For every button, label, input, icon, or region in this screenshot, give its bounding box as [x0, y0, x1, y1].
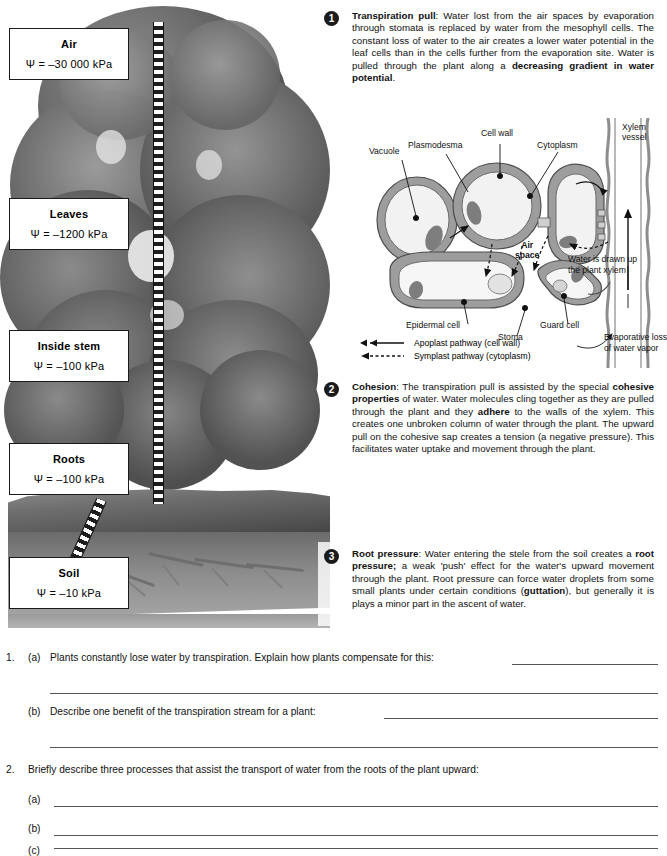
question-1-number: 1.	[6, 652, 15, 663]
label-water-drawn-line1: Water is drawn up	[568, 254, 637, 264]
step-text: Root pressure: Water entering the stele …	[324, 548, 654, 610]
question-2c-label: (c)	[28, 845, 40, 856]
bedrock-layer	[8, 614, 330, 628]
answer-line-1b-2[interactable]	[50, 747, 658, 748]
answer-line-1b-1[interactable]	[384, 718, 658, 719]
worksheet-questions: 1. (a) Plants constantly lose water by t…	[0, 648, 663, 849]
step-number-badge: 3	[324, 549, 339, 564]
legend-row-apoplast: Apoplast pathway (cell wall)	[358, 336, 588, 349]
water-potential-box-air: Air Ψ = –30 000 kPa	[9, 28, 129, 80]
potential-box-name: Leaves	[10, 208, 128, 220]
label-plasmodesma: Plasmodesma	[408, 140, 462, 150]
water-potential-box-roots: Roots Ψ = –100 kPa	[9, 443, 129, 495]
label-air-space: Air space	[515, 240, 539, 260]
potential-box-name: Soil	[10, 567, 128, 579]
plasmodesma-channel	[538, 218, 550, 227]
potential-box-value: Ψ = –1200 kPa	[10, 228, 128, 240]
step-number-badge: 1	[324, 11, 339, 26]
label-cell-wall: Cell wall	[481, 128, 513, 138]
label-evaporative-loss: Evaporative loss of water vapor	[604, 332, 667, 354]
step-title: Root pressure	[352, 548, 418, 559]
potential-box-value: Ψ = –100 kPa	[10, 473, 128, 485]
step-text: Transpiration pull: Water lost from the …	[324, 10, 654, 84]
label-cytoplasm: Cytoplasm	[537, 140, 578, 150]
step-title: Transpiration pull	[352, 10, 436, 21]
question-2-stem: Briefly describe three processes that as…	[28, 764, 479, 775]
question-1a-text: Plants constantly lose water by transpir…	[50, 652, 434, 663]
step-emphasis-2: adhere	[478, 406, 510, 417]
step-number-badge: 2	[324, 382, 339, 397]
legend-label-apoplast: Apoplast pathway (cell wall)	[414, 338, 520, 348]
water-column-stripe	[153, 22, 164, 504]
potential-box-name: Air	[10, 38, 128, 50]
step-transpiration-pull: 1 Transpiration pull: Water lost from th…	[324, 10, 654, 84]
tree-illustration-panel	[0, 0, 330, 640]
epidermal-cell	[390, 252, 524, 308]
question-1a-label: (a)	[28, 652, 40, 663]
label-water-drawn-up: Water is drawn up the plant xylem	[568, 254, 637, 276]
label-evaporative-line2: of water vapor	[604, 343, 658, 353]
xylem-vessel-shape	[607, 118, 649, 368]
label-xylem-vessel-line2: vessel	[622, 132, 646, 142]
step-root-pressure: 3 Root pressure: Water entering the stel…	[324, 548, 654, 610]
answer-line-2c[interactable]	[54, 848, 658, 849]
label-air-space-line1: Air	[521, 240, 533, 250]
label-guard-cell: Guard cell	[540, 320, 579, 330]
apoplast-line-icon	[358, 337, 406, 348]
question-2b-label: (b)	[28, 823, 40, 834]
pathway-legend: Apoplast pathway (cell wall) Symplast pa…	[358, 336, 588, 362]
potential-box-value: Ψ = –30 000 kPa	[10, 58, 128, 70]
mesophyll-cell-diagram: Vacuole Plasmodesma Cell wall Cytoplasm …	[372, 118, 663, 368]
symplast-line-icon	[358, 350, 406, 361]
label-xylem-vessel-line1: Xylem	[622, 122, 646, 132]
label-epidermal-cell: Epidermal cell	[406, 320, 460, 330]
answer-line-1a-1[interactable]	[512, 664, 658, 665]
step-text: Cohesion: The transpiration pull is assi…	[324, 381, 654, 455]
question-1b-label: (b)	[28, 706, 40, 717]
label-vacuole: Vacuole	[369, 146, 399, 156]
answer-line-2b[interactable]	[54, 835, 658, 836]
potential-box-value: Ψ = –10 kPa	[10, 587, 128, 599]
potential-box-name: Inside stem	[10, 340, 128, 352]
question-1b-text: Describe one benefit of the transpiratio…	[50, 706, 316, 717]
label-evaporative-line1: Evaporative loss	[604, 332, 667, 342]
potential-box-name: Roots	[10, 453, 128, 465]
step-title: Cohesion	[352, 381, 396, 392]
label-xylem-vessel: Xylem vessel	[622, 122, 646, 142]
mesophyll-cell-right	[548, 164, 605, 264]
label-air-space-line2: space	[515, 250, 539, 260]
answer-line-1a-2[interactable]	[50, 693, 658, 694]
step-body: : Water entering the stele from the soil…	[418, 548, 635, 559]
step-body-tail: .	[392, 72, 395, 83]
question-2a-label: (a)	[28, 794, 40, 805]
step-cohesion: 2 Cohesion: The transpiration pull is as…	[324, 381, 654, 455]
step-body: : The transpiration pull is assisted by …	[396, 381, 612, 392]
question-2-number: 2.	[6, 764, 15, 775]
answer-line-2a[interactable]	[54, 806, 658, 807]
legend-row-symplast: Symplast pathway (cytoplasm)	[358, 349, 588, 362]
potential-box-value: Ψ = –100 kPa	[10, 360, 128, 372]
step-emphasis-2: guttation	[524, 585, 565, 596]
water-potential-box-soil: Soil Ψ = –10 kPa	[9, 557, 129, 609]
water-potential-box-leaves: Leaves Ψ = –1200 kPa	[9, 198, 129, 250]
label-water-drawn-line2: the plant xylem	[568, 265, 626, 275]
water-potential-box-inside-stem: Inside stem Ψ = –100 kPa	[9, 330, 129, 382]
legend-label-symplast: Symplast pathway (cytoplasm)	[414, 351, 531, 361]
